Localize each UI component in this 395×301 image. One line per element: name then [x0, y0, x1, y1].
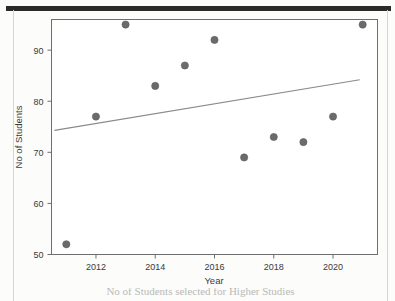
x-axis-tick-label: 2012 — [86, 262, 106, 272]
data-point-marker — [122, 21, 129, 28]
data-point-marker — [300, 139, 307, 146]
figure-caption-clipped: No of Students selected for Higher Studi… — [14, 288, 387, 301]
data-point-marker — [211, 36, 218, 43]
data-point-marker — [329, 113, 336, 120]
chart-svg-canvas: 5060708090 20122014201620182020 No of St… — [0, 0, 395, 301]
data-point-marker — [63, 241, 70, 248]
plot-frame — [52, 20, 378, 255]
data-point-marker — [241, 154, 248, 161]
y-axis-tick-label: 70 — [33, 148, 43, 158]
x-axis-label: Year — [204, 275, 223, 286]
figure-caption-text: No of Students selected for Higher Studi… — [14, 288, 387, 297]
scatter-chart-figure: 5060708090 20122014201620182020 No of St… — [0, 0, 395, 301]
data-point-marker — [270, 133, 277, 140]
plot-area-border — [52, 20, 378, 255]
data-point-marker — [181, 62, 188, 69]
x-axis-tick-group: 20122014201620182020 — [86, 255, 343, 272]
x-axis-tick-label: 2020 — [323, 262, 343, 272]
data-point-marker — [359, 21, 366, 28]
y-axis-tick-label: 60 — [33, 199, 43, 209]
data-point-marker — [152, 82, 159, 89]
y-axis-tick-group: 5060708090 — [33, 46, 51, 260]
x-axis-tick-label: 2014 — [145, 262, 165, 272]
y-axis-tick-label: 80 — [33, 97, 43, 107]
y-axis-tick-label: 90 — [33, 46, 43, 56]
y-axis-label: No of Students — [13, 105, 24, 168]
y-axis-tick-label: 50 — [33, 250, 43, 260]
x-axis-tick-label: 2016 — [204, 262, 224, 272]
data-point-marker — [92, 113, 99, 120]
x-axis-tick-label: 2018 — [264, 262, 284, 272]
